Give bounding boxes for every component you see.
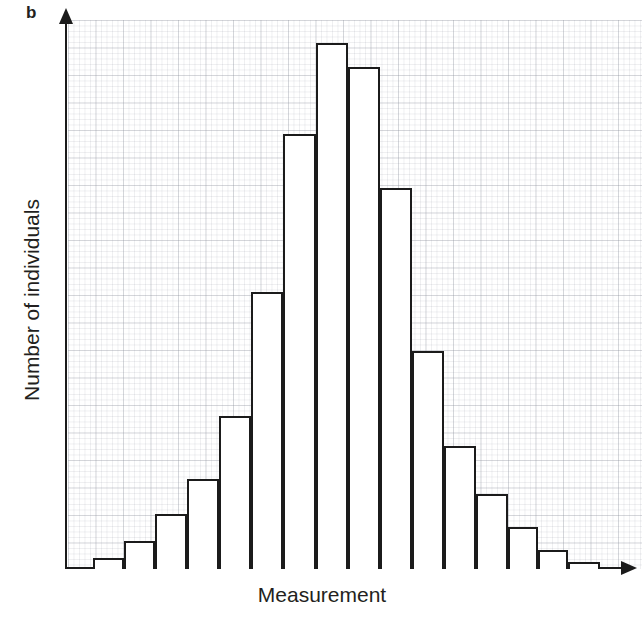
histogram-bars bbox=[0, 0, 644, 621]
histogram-bar bbox=[219, 416, 251, 569]
histogram-bar bbox=[538, 550, 568, 569]
histogram-bar bbox=[476, 494, 508, 569]
histogram-bar bbox=[380, 188, 412, 569]
histogram-bar bbox=[316, 43, 348, 569]
histogram-bar bbox=[568, 562, 600, 569]
histogram-bar bbox=[348, 67, 380, 569]
y-axis-title-container: Number of individuals bbox=[20, 20, 44, 580]
histogram-bar bbox=[124, 541, 155, 569]
histogram-bar bbox=[187, 479, 219, 569]
histogram-bar bbox=[283, 134, 316, 569]
histogram-bar bbox=[155, 514, 187, 569]
histogram-figure: b Number of individuals Measurement bbox=[0, 0, 644, 621]
x-axis-title: Measurement bbox=[0, 583, 644, 607]
histogram-bar bbox=[251, 292, 283, 569]
histogram-bar bbox=[444, 446, 476, 569]
histogram-bar bbox=[412, 351, 444, 569]
histogram-bar bbox=[508, 527, 538, 569]
histogram-bar bbox=[93, 558, 124, 569]
y-axis-title: Number of individuals bbox=[20, 199, 43, 401]
